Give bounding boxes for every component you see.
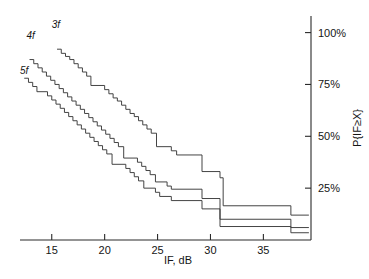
- x-tick-group: 1520253035: [46, 234, 270, 256]
- x-tick-label: 15: [46, 244, 58, 256]
- x-tick-label: 20: [99, 244, 111, 256]
- y-tick-label: 100%: [318, 27, 346, 39]
- y-axis-title: P{IF≥X}: [351, 109, 363, 147]
- x-tick-label: 35: [257, 244, 269, 256]
- series-label-3f: 3f: [52, 19, 62, 30]
- series-label-4f: 4f: [26, 30, 36, 41]
- y-tick-label: 50%: [318, 130, 340, 142]
- series-curve-4f: [30, 60, 309, 228]
- x-tick-label: 30: [204, 244, 216, 256]
- x-tick-label: 25: [151, 244, 163, 256]
- chart-figure: 1520253035 25%50%75%100% 3f4f5f IF, dB P…: [0, 0, 369, 279]
- series-curve-5f: [24, 78, 309, 233]
- x-axis-title: IF, dB: [164, 254, 192, 266]
- curves-group: [24, 49, 309, 233]
- ccdf-chart: 1520253035 25%50%75%100% 3f4f5f IF, dB P…: [0, 0, 369, 279]
- series-label-5f: 5f: [20, 65, 30, 76]
- series-curve-3f: [57, 49, 309, 215]
- y-tick-label: 25%: [318, 182, 340, 194]
- axes-group: [20, 16, 311, 240]
- y-tick-label: 75%: [318, 78, 340, 90]
